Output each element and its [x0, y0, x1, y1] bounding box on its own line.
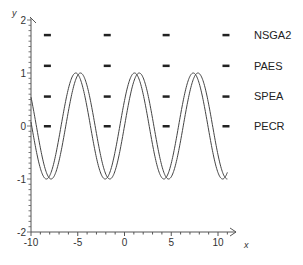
legend-label-spea: SPEA: [254, 90, 284, 102]
curve-line: [31, 73, 227, 179]
y-tick-label: 0: [20, 121, 26, 132]
marker-paes: [222, 65, 229, 68]
x-tick-label: -5: [73, 237, 82, 248]
marker-spea: [44, 95, 51, 98]
marker-paes: [44, 65, 51, 68]
x-tick-label: -10: [24, 237, 39, 248]
curve-line: [31, 73, 227, 179]
x-axis-label: x: [243, 240, 249, 250]
x-tick-label: 10: [212, 237, 224, 248]
legend-label-nsga2: NSGA2: [254, 29, 291, 41]
marker-nsga2: [163, 34, 170, 37]
marker-pecr: [44, 125, 51, 128]
chart: -10-50510-2-1012 NSGA2PAESSPEAPECR x y: [0, 0, 303, 265]
marker-spea: [104, 95, 111, 98]
legend: NSGA2PAESSPEAPECR: [254, 29, 291, 132]
marker-nsga2: [104, 34, 111, 37]
markers: [44, 34, 230, 128]
marker-pecr: [163, 125, 170, 128]
marker-paes: [163, 65, 170, 68]
y-tick-label: 2: [20, 15, 26, 26]
marker-paes: [104, 65, 111, 68]
curves: [31, 73, 227, 179]
y-tick-label: 1: [20, 68, 26, 79]
axes: -10-50510-2-1012: [17, 15, 236, 248]
y-tick-label: -2: [17, 227, 26, 238]
y-axis-label: y: [11, 8, 17, 18]
y-tick-label: -1: [17, 174, 26, 185]
marker-pecr: [104, 125, 111, 128]
legend-label-pecr: PECR: [254, 120, 285, 132]
x-tick-label: 0: [122, 237, 128, 248]
marker-spea: [163, 95, 170, 98]
legend-label-paes: PAES: [254, 60, 283, 72]
marker-pecr: [222, 125, 229, 128]
marker-nsga2: [44, 34, 51, 37]
marker-nsga2: [222, 34, 229, 37]
marker-spea: [222, 95, 229, 98]
x-tick-label: 5: [168, 237, 174, 248]
